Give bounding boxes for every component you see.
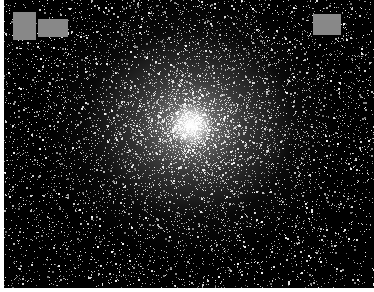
star-cluster-photo	[4, 0, 374, 288]
redaction-box-3	[313, 14, 341, 35]
cluster-core	[4, 0, 374, 288]
redaction-box-1	[13, 12, 36, 40]
redaction-box-2	[38, 19, 68, 37]
